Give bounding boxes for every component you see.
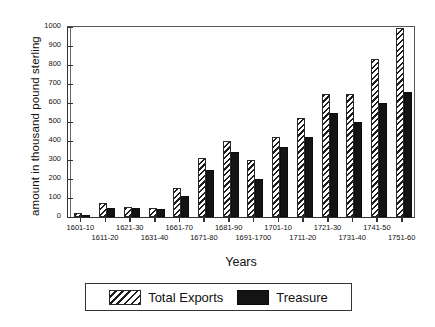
bar-group — [99, 203, 115, 217]
bar-total-exports — [272, 137, 280, 217]
bar-treasure — [231, 152, 239, 217]
bar-treasure — [181, 196, 189, 217]
legend-item-total-exports: Total Exports — [109, 290, 223, 305]
x-tick-label: 1621-30 — [116, 223, 144, 232]
x-tick-mark — [228, 217, 230, 222]
bar-series-container — [70, 27, 414, 217]
bar-treasure — [157, 209, 165, 217]
x-tick-mark — [278, 217, 280, 222]
x-tick-label: 1741-50 — [363, 223, 391, 232]
x-tick-mark — [253, 217, 255, 222]
bar-treasure — [255, 179, 263, 217]
x-tick-mark — [376, 217, 378, 222]
bar-total-exports — [346, 94, 354, 218]
bar-total-exports — [396, 28, 404, 217]
legend-label-treasure: Treasure — [276, 290, 328, 305]
legend-label-total-exports: Total Exports — [148, 290, 223, 305]
y-tick-label: 300 — [48, 154, 61, 163]
bar-treasure — [379, 103, 387, 217]
x-tick-label: 1721-30 — [314, 223, 342, 232]
x-tick-label: 1601-10 — [67, 223, 95, 232]
y-tick-label: 600 — [48, 97, 61, 106]
x-tick-label: 1681-90 — [215, 223, 243, 232]
legend-swatch-treasure — [237, 290, 269, 305]
x-tick-label: 1711-20 — [289, 233, 316, 242]
bar-group — [322, 94, 338, 218]
bar-total-exports — [322, 94, 330, 218]
legend-swatch-total-exports — [109, 290, 141, 305]
bar-treasure — [404, 92, 412, 217]
bar-treasure — [107, 208, 115, 218]
bar-group — [124, 207, 140, 217]
bar-group — [272, 137, 288, 217]
y-tick-label: 800 — [48, 59, 61, 68]
bar-total-exports — [173, 188, 181, 217]
bar-treasure — [305, 137, 313, 217]
bar-group — [173, 188, 189, 217]
bar-treasure — [132, 208, 140, 217]
x-tick-label: 1631-40 — [141, 233, 169, 242]
bar-group — [223, 141, 239, 217]
bar-treasure — [82, 215, 90, 217]
x-tick-mark — [105, 217, 107, 222]
bar-group — [346, 94, 362, 218]
y-axis-title: amount in thousand pound sterling — [29, 11, 41, 241]
y-tick-label: 900 — [48, 40, 61, 49]
bar-treasure — [330, 113, 338, 217]
bar-group — [371, 59, 387, 217]
x-tick-mark — [80, 217, 82, 222]
y-tick-label: 0 — [57, 211, 61, 220]
bar-total-exports — [149, 208, 157, 218]
x-tick-label: 1611-20 — [92, 233, 119, 242]
x-tick-mark — [352, 217, 354, 222]
y-tick-label: 1000 — [44, 21, 61, 30]
plot-area: 01002003004005006007008009001000 1601-10… — [67, 26, 415, 218]
x-tick-mark — [179, 217, 181, 222]
bar-total-exports — [371, 59, 379, 217]
bar-treasure — [206, 170, 214, 218]
chart-legend: Total Exports Treasure — [85, 283, 352, 311]
bar-group — [247, 160, 263, 217]
x-tick-mark — [327, 217, 329, 222]
bar-total-exports — [99, 203, 107, 217]
x-tick-label: 1701-10 — [264, 223, 292, 232]
y-tick-label: 400 — [48, 135, 61, 144]
x-tick-label: 1661-70 — [165, 223, 193, 232]
x-tick-mark — [129, 217, 131, 222]
bar-total-exports — [297, 118, 305, 217]
bar-group — [396, 28, 412, 217]
legend-item-treasure: Treasure — [237, 290, 328, 305]
bar-group — [297, 118, 313, 217]
y-tick-label: 100 — [48, 192, 61, 201]
x-tick-label: 1691-1700 — [235, 233, 271, 242]
bar-group — [149, 208, 165, 218]
x-tick-mark — [401, 217, 403, 222]
bar-total-exports — [223, 141, 231, 217]
x-tick-mark — [154, 217, 156, 222]
y-tick-label: 700 — [48, 78, 61, 87]
bar-total-exports — [247, 160, 255, 217]
x-tick-label: 1751-60 — [388, 233, 416, 242]
x-tick-label: 1731-40 — [338, 233, 366, 242]
bar-group — [74, 213, 90, 217]
x-axis-title: Years — [67, 255, 415, 269]
y-tick-label: 200 — [48, 173, 61, 182]
bar-treasure — [354, 122, 362, 217]
bar-treasure — [280, 147, 288, 217]
bar-group — [198, 158, 214, 217]
chart-figure: amount in thousand pound sterling 010020… — [0, 0, 435, 327]
x-tick-label: 1671-80 — [190, 233, 218, 242]
bar-total-exports — [124, 207, 132, 217]
x-tick-mark — [203, 217, 205, 222]
x-tick-mark — [302, 217, 304, 222]
y-tick-label: 500 — [48, 116, 61, 125]
bar-total-exports — [198, 158, 206, 217]
